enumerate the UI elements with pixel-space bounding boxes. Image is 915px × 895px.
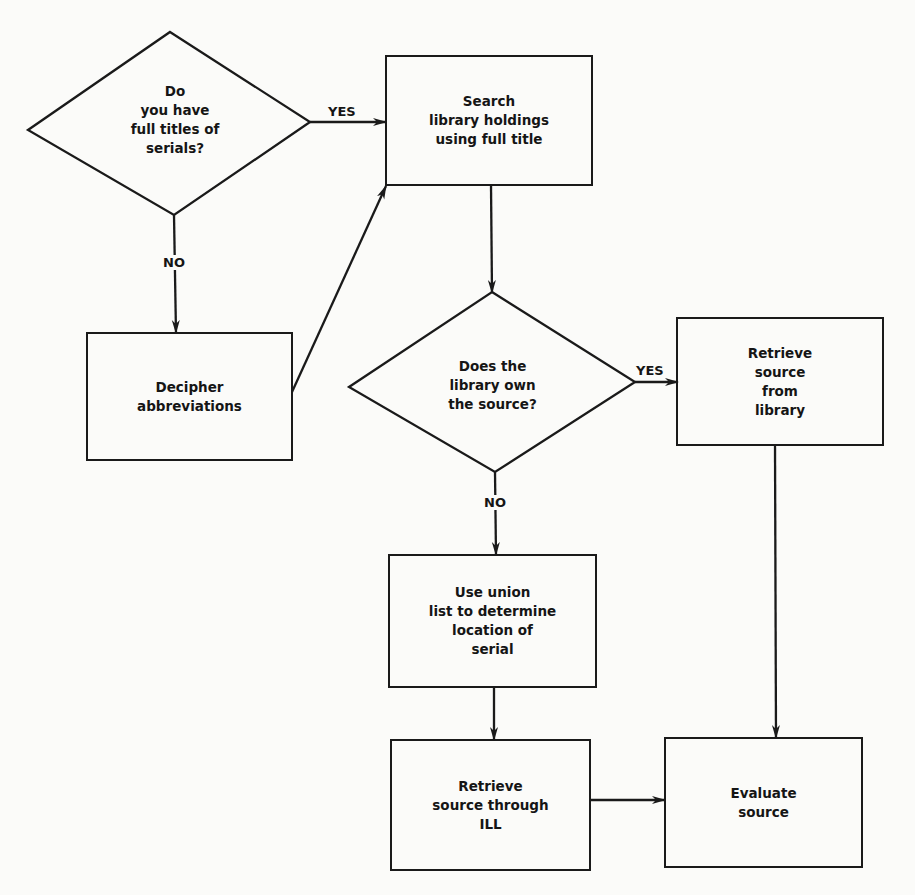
edge-q2-no <box>495 472 496 555</box>
process-evaluate-source: Evaluate source <box>664 737 863 868</box>
edge-q1-no <box>174 215 176 333</box>
edge-search-to-q2 <box>491 185 492 293</box>
process-retrieve-from-library: Retrieve source from library <box>676 317 884 446</box>
edge-label-q1-yes: YES <box>328 104 356 119</box>
decision-full-titles-text: Do you have full titles of serials? <box>90 70 260 170</box>
process-search-holdings: Search library holdings using full title <box>385 55 593 186</box>
process-union-list: Use union list to determine location of … <box>388 554 597 688</box>
edge-label-q2-no: NO <box>483 495 507 510</box>
process-retrieve-through-ill: Retrieve source through ILL <box>390 739 591 871</box>
decision-library-owns-text: Does the library own the source? <box>410 345 575 425</box>
edge-label-q2-yes: YES <box>636 363 664 378</box>
edge-label-q1-no: NO <box>162 255 186 270</box>
edge-retrieve-library-to-evaluate <box>775 445 776 738</box>
edge-decipher-to-search <box>292 186 386 392</box>
process-decipher-abbreviations: Decipher abbreviations <box>86 332 293 461</box>
